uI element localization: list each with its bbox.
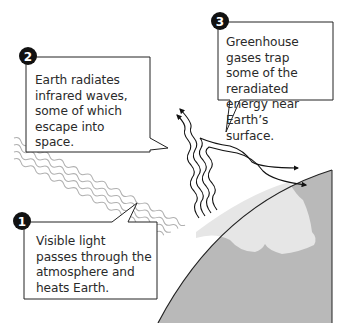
callout-1-text: Visible light passes through the atmosph…	[36, 234, 158, 296]
callout-2-text: Earth radiates infrared waves, some of w…	[35, 73, 147, 151]
badge-2-number: 2	[24, 50, 32, 64]
badge-3: 3	[211, 12, 229, 30]
callout-3-text: Greenhouse gases trap some of the reradi…	[226, 35, 334, 144]
badge-3-number: 3	[216, 15, 224, 29]
badge-1-number: 1	[18, 215, 26, 229]
earth-surface	[158, 170, 332, 323]
badge-2: 2	[19, 47, 37, 65]
badge-1: 1	[13, 212, 31, 230]
infrared-waves-escaping	[177, 109, 205, 218]
